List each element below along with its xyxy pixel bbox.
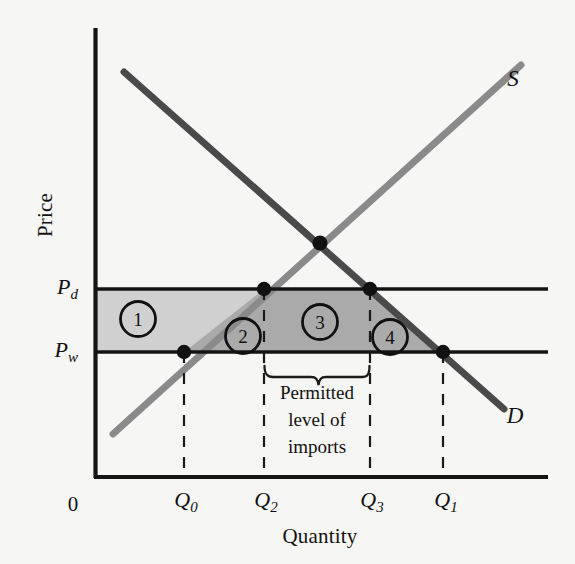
import-quota-figure: Price Quantity S D Pd Pw 0 Q0 Q2 Q3 Q1 P…	[0, 0, 575, 564]
region-3-number: 3	[315, 313, 325, 332]
x-tick-q1-main: Q	[434, 487, 450, 512]
x-tick-q3-sub: 3	[376, 499, 383, 515]
region-2-number: 2	[238, 327, 248, 346]
point-q2-pd	[257, 282, 271, 296]
x-tick-q3-main: Q	[360, 487, 376, 512]
world-price-label-main: P	[55, 337, 68, 362]
x-tick-q1-sub: 1	[450, 499, 457, 515]
world-price-label: Pw	[55, 339, 78, 365]
x-tick-label-q3: Q3	[360, 489, 383, 515]
x-tick-label-q2: Q2	[254, 489, 277, 515]
x-tick-label-q1: Q1	[434, 489, 457, 515]
domestic-price-label: Pd	[57, 276, 78, 302]
permitted-imports-caption-line-1: Permitted	[252, 380, 382, 407]
region-4-number: 4	[385, 328, 395, 347]
x-axis-title: Quantity	[282, 526, 357, 547]
point-autarky-equilibrium	[312, 235, 327, 250]
domestic-price-label-sub: d	[71, 286, 78, 302]
demand-curve-label: D	[507, 404, 524, 427]
permitted-imports-caption-line-3: imports	[252, 433, 382, 460]
x-tick-q0-sub: 0	[190, 499, 197, 515]
plot-canvas	[0, 0, 575, 564]
x-tick-q0-main: Q	[174, 487, 190, 512]
permitted-imports-caption: Permitted level of imports	[252, 380, 382, 461]
world-price-label-sub: w	[68, 349, 78, 365]
x-tick-q2-main: Q	[254, 487, 270, 512]
origin-label: 0	[68, 494, 79, 515]
domestic-price-label-main: P	[57, 274, 70, 299]
supply-curve-label: S	[507, 67, 519, 90]
y-axis-title: Price	[35, 193, 56, 237]
x-tick-label-q0: Q0	[174, 489, 197, 515]
region-1-number: 1	[133, 310, 143, 329]
point-q3-pd	[363, 282, 377, 296]
x-tick-q2-sub: 2	[270, 499, 277, 515]
point-q0-pw	[177, 345, 191, 359]
point-q1-pw	[436, 345, 450, 359]
permitted-imports-caption-line-2: level of	[252, 407, 382, 434]
